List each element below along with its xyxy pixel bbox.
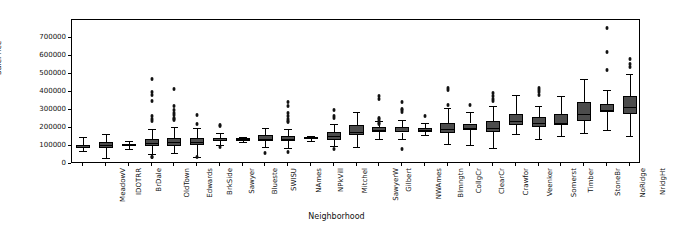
x-tick-mark xyxy=(424,163,425,166)
box-iqr xyxy=(623,96,637,114)
x-tick-mark xyxy=(242,163,243,166)
x-tick-mark xyxy=(515,163,516,166)
cap-upper xyxy=(626,74,634,75)
whisker-lower xyxy=(630,114,631,137)
x-tick-label: NPkVill xyxy=(337,168,345,192)
x-tick-mark xyxy=(378,163,379,166)
y-tick-label: 0 xyxy=(62,159,66,167)
x-tick-mark xyxy=(447,163,448,166)
x-tick-label: Crawfor xyxy=(522,168,530,195)
x-tick-mark xyxy=(105,163,106,166)
x-tick-label: StoneBr xyxy=(614,168,622,196)
x-tick-label: SawyerW xyxy=(391,168,399,201)
x-tick-label: NAmes xyxy=(315,168,323,193)
y-tick-label: 500000 xyxy=(39,69,66,77)
x-tick-label: Blmngtn xyxy=(456,168,464,198)
plot-inner xyxy=(72,20,639,162)
x-tick-label: NWAmes xyxy=(435,168,443,199)
x-tick-label: Gilbert xyxy=(405,168,413,192)
y-tick-label: 600000 xyxy=(39,51,66,59)
x-tick-label: NridgHt xyxy=(659,168,667,195)
boxplot-figure: SalePrice 010000020000030000040000050000… xyxy=(0,0,673,238)
x-tick-label: BrDale xyxy=(155,168,163,192)
median-line xyxy=(623,107,637,108)
x-tick-label: Blueste xyxy=(271,168,279,194)
x-tick-mark xyxy=(128,163,129,166)
x-tick-label: SWISU xyxy=(290,168,298,191)
x-tick-label: OldTown xyxy=(183,168,191,197)
x-tick-mark xyxy=(583,163,584,166)
x-tick-mark xyxy=(151,163,152,166)
x-tick-label: Mitchel xyxy=(361,168,369,193)
x-tick-mark xyxy=(219,163,220,166)
cap-lower xyxy=(626,136,634,137)
box-plot-group xyxy=(72,20,639,162)
y-tick-label: 200000 xyxy=(39,123,66,131)
x-tick-label: MeadowV xyxy=(119,168,127,202)
whisker-upper xyxy=(630,74,631,96)
x-tick-label: Edwards xyxy=(206,168,214,198)
x-tick-mark xyxy=(82,163,83,166)
x-tick-mark xyxy=(173,163,174,166)
y-tick-mark xyxy=(68,163,71,164)
x-tick-mark xyxy=(560,163,561,166)
x-tick-label: Timber xyxy=(588,168,596,192)
x-tick-label: ClearCr xyxy=(498,168,506,194)
x-tick-label: CollgCr xyxy=(475,168,483,193)
outlier-point xyxy=(628,57,631,61)
x-tick-mark xyxy=(469,163,470,166)
x-tick-mark xyxy=(333,163,334,166)
y-axis-title: SalePrice xyxy=(0,41,3,75)
x-tick-mark xyxy=(310,163,311,166)
y-tick-label: 700000 xyxy=(39,33,66,41)
x-tick-mark xyxy=(401,163,402,166)
x-tick-mark xyxy=(264,163,265,166)
y-tick-label: 300000 xyxy=(39,105,66,113)
x-tick-label: Sawyer xyxy=(248,168,256,194)
x-tick-label: Veenker xyxy=(546,168,554,196)
x-tick-mark xyxy=(606,163,607,166)
x-tick-mark xyxy=(196,163,197,166)
x-tick-mark xyxy=(287,163,288,166)
x-tick-mark xyxy=(356,163,357,166)
x-tick-label: NoRidge xyxy=(638,168,646,198)
y-tick-label: 100000 xyxy=(39,141,66,149)
x-tick-label: IDOTRR xyxy=(135,168,143,195)
x-axis-title: Neighborhood xyxy=(0,212,673,221)
x-tick-mark xyxy=(538,163,539,166)
outlier-point xyxy=(628,65,631,69)
x-tick-mark xyxy=(629,163,630,166)
x-tick-label: BrkSide xyxy=(226,168,234,195)
x-tick-label: Somerst xyxy=(570,168,578,197)
plot-area xyxy=(71,19,640,163)
y-tick-label: 400000 xyxy=(39,87,66,95)
x-tick-mark xyxy=(492,163,493,166)
